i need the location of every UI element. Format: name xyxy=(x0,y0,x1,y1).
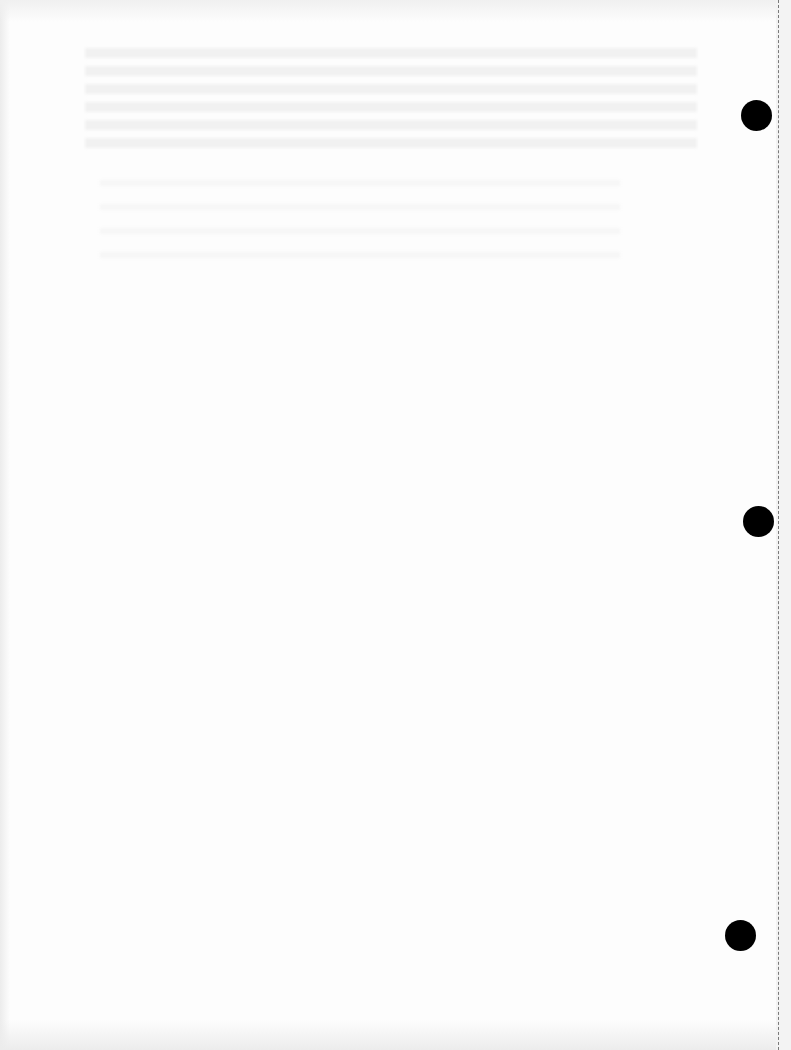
scan-edge-left xyxy=(0,0,10,1050)
punch-hole-bottom xyxy=(725,920,756,951)
perforation-line xyxy=(778,0,779,1050)
scan-edge-bottom xyxy=(0,1020,791,1050)
punch-hole-middle xyxy=(743,506,774,537)
bleed-through-text-lines xyxy=(100,180,620,270)
scan-edge-top xyxy=(0,0,791,22)
scanned-page xyxy=(0,0,791,1050)
bleed-through-text-block xyxy=(85,48,697,148)
punch-hole-top xyxy=(741,100,772,131)
